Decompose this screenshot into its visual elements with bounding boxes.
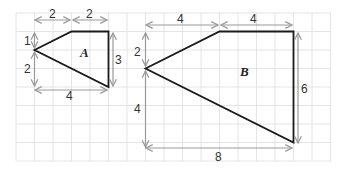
diagram-canvas: A 2 2 1 2 3 4 B 4 4 2 4 6 8: [0, 0, 343, 174]
dim-b-top-left: 4: [177, 12, 184, 26]
dim-b-left-upper: 2: [134, 45, 141, 59]
dim-b-top-right: 4: [250, 12, 257, 26]
shape-a: A 2 2 1 2 3 4: [24, 7, 122, 103]
dim-a-top-left: 2: [49, 7, 56, 21]
dim-a-left-lower: 2: [24, 62, 31, 76]
dim-b-right: 6: [301, 82, 308, 96]
dim-a-bottom: 4: [66, 89, 73, 103]
dim-a-top-right: 2: [86, 7, 93, 21]
dim-a-right: 3: [115, 53, 122, 67]
dim-b-left-lower: 4: [134, 102, 141, 116]
shape-a-label: A: [79, 45, 89, 60]
shape-b-label: B: [239, 64, 249, 79]
dim-b-bottom: 8: [215, 150, 222, 164]
shape-b: B 4 4 2 4 6 8: [134, 12, 308, 164]
dim-a-left-upper: 1: [24, 34, 31, 48]
